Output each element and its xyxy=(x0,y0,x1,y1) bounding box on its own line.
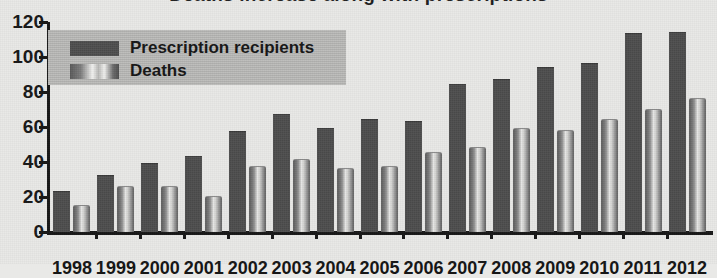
bar-prescription-recipients xyxy=(581,63,598,232)
x-axis-tick xyxy=(95,232,98,239)
bar-deaths xyxy=(601,119,618,232)
bar-group xyxy=(401,22,445,232)
bar-prescription-recipients xyxy=(229,131,246,232)
x-axis-tick xyxy=(578,232,581,239)
legend-entry-deaths: Deaths xyxy=(70,61,187,81)
bar-prescription-recipients xyxy=(317,128,334,232)
chart-title: Deaths increase along with prescriptions xyxy=(169,0,548,6)
bar-prescription-recipients xyxy=(625,33,642,232)
chart-legend: Prescription recipients Deaths xyxy=(48,30,346,85)
x-axis-tick xyxy=(534,232,537,239)
bar-deaths xyxy=(645,109,662,233)
bar-prescription-recipients xyxy=(97,175,114,232)
bar-group xyxy=(489,22,533,232)
x-axis-label: 1999 xyxy=(96,258,136,278)
bar-deaths xyxy=(161,186,178,233)
bar-deaths xyxy=(249,166,266,232)
x-axis-tick xyxy=(227,232,230,239)
x-axis-tick xyxy=(139,232,142,239)
bar-prescription-recipients xyxy=(669,32,686,233)
bar-deaths xyxy=(513,128,530,232)
x-axis-label: 2008 xyxy=(491,258,531,278)
legend-entry-prescription-recipients: Prescription recipients xyxy=(70,38,314,58)
bar-group xyxy=(533,22,577,232)
x-axis-tick xyxy=(622,232,625,239)
bar-prescription-recipients xyxy=(537,67,554,233)
x-axis-label: 2003 xyxy=(272,258,312,278)
x-axis-tick xyxy=(183,232,186,239)
x-axis-label: 2011 xyxy=(624,258,663,278)
bar-group xyxy=(445,22,489,232)
x-axis-label: 2012 xyxy=(667,258,707,278)
bar-group xyxy=(621,22,665,232)
y-axis-tick-label: 20 xyxy=(2,186,44,208)
bar-prescription-recipients xyxy=(53,191,70,232)
bar-deaths xyxy=(381,166,398,232)
x-axis-label: 2000 xyxy=(140,258,180,278)
x-axis-tick xyxy=(666,232,669,239)
legend-label-deaths: Deaths xyxy=(130,61,187,81)
y-axis-tick-label: 80 xyxy=(2,81,44,103)
x-axis-tick xyxy=(402,232,405,239)
bar-deaths xyxy=(689,98,706,232)
x-axis-tick xyxy=(446,232,449,239)
bar-deaths xyxy=(469,147,486,232)
x-axis-label: 2005 xyxy=(359,258,399,278)
bar-deaths xyxy=(557,130,574,233)
bar-group xyxy=(665,22,709,232)
bar-deaths xyxy=(337,168,354,232)
bar-deaths xyxy=(73,205,90,232)
x-axis-tick xyxy=(271,232,274,239)
bar-prescription-recipients xyxy=(405,121,422,232)
y-axis-tick-label: 60 xyxy=(2,116,44,138)
x-axis-label: 2010 xyxy=(579,258,619,278)
x-axis-label: 1998 xyxy=(52,258,92,278)
chart-title-clipped: Deaths increase along with prescriptions xyxy=(0,0,717,9)
y-axis-tick-label: 120 xyxy=(2,11,44,33)
bar-group xyxy=(577,22,621,232)
x-axis-tick xyxy=(490,232,493,239)
x-axis-label: 2007 xyxy=(447,258,487,278)
legend-label-prescription-recipients: Prescription recipients xyxy=(130,38,314,58)
bar-deaths xyxy=(205,196,222,232)
bar-prescription-recipients xyxy=(185,156,202,232)
bar-deaths xyxy=(425,152,442,232)
x-axis-label: 2004 xyxy=(316,258,356,278)
y-axis-tick-label: 100 xyxy=(2,46,44,68)
bar-deaths xyxy=(293,159,310,232)
bar-prescription-recipients xyxy=(361,119,378,232)
bar-prescription-recipients xyxy=(141,163,158,232)
bar-prescription-recipients xyxy=(273,114,290,232)
x-axis-tick xyxy=(359,232,362,239)
x-axis-label: 2002 xyxy=(228,258,268,278)
y-axis-tick-label: 0 xyxy=(2,221,44,243)
bar-group xyxy=(358,22,402,232)
bar-deaths xyxy=(117,186,134,233)
legend-swatch-prescription-recipients xyxy=(70,41,119,56)
y-axis-tick-label: 40 xyxy=(2,151,44,173)
x-axis-label: 2001 xyxy=(184,258,224,278)
x-axis-tick xyxy=(315,232,318,239)
legend-swatch-deaths xyxy=(70,64,119,79)
bar-prescription-recipients xyxy=(449,84,466,232)
bar-prescription-recipients xyxy=(493,79,510,232)
x-axis-label: 2006 xyxy=(403,258,443,278)
x-axis-label: 2009 xyxy=(535,258,575,278)
